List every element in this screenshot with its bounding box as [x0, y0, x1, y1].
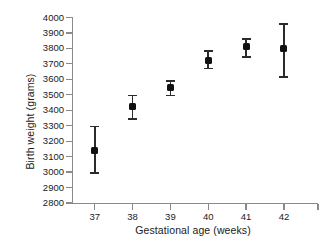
- y-axis-tick-label: 4000: [34, 13, 64, 23]
- y-axis-tick: [66, 110, 72, 111]
- data-point-marker: [243, 43, 250, 50]
- x-axis-tick: [94, 204, 95, 210]
- y-axis-tick: [66, 79, 72, 80]
- x-axis-title: Gestational age (weeks): [68, 224, 318, 236]
- y-axis-tick-label: 3300: [34, 121, 64, 131]
- y-axis-tick: [66, 32, 72, 33]
- error-bar-cap-upper: [204, 50, 213, 52]
- y-axis-tick-label: 3600: [34, 74, 64, 84]
- y-axis-tick-label: 2900: [34, 183, 64, 193]
- y-axis-tick: [66, 63, 72, 64]
- x-axis-tick-label: 41: [231, 212, 261, 222]
- error-bar-cap-upper: [279, 23, 288, 25]
- y-axis-tick: [66, 187, 72, 188]
- y-axis-tick: [66, 141, 72, 142]
- x-axis-tick-label: 37: [80, 212, 110, 222]
- y-axis-line: [72, 17, 73, 204]
- error-bar-cap-upper: [90, 126, 99, 128]
- x-axis-tick: [132, 204, 133, 210]
- x-axis-tick-label: 39: [155, 212, 185, 222]
- error-bar-cap-lower: [166, 95, 175, 97]
- data-point-marker: [129, 103, 136, 110]
- x-axis-tick: [245, 204, 246, 210]
- data-point-marker: [280, 45, 287, 52]
- x-axis-tick-label: 40: [193, 212, 223, 222]
- y-axis-tick-label: 3200: [34, 136, 64, 146]
- y-axis-tick-label: 3900: [34, 28, 64, 38]
- y-axis-tick-label: 3400: [34, 105, 64, 115]
- y-axis-tick-label: 3700: [34, 59, 64, 69]
- y-axis-tick-label: 3800: [34, 43, 64, 53]
- error-bar-cap-lower: [279, 76, 288, 78]
- y-axis-tick-label: 2800: [34, 198, 64, 208]
- y-axis-tick: [66, 156, 72, 157]
- data-point-marker: [91, 147, 98, 154]
- x-axis-tick-label: 38: [118, 212, 148, 222]
- y-axis-tick: [66, 48, 72, 49]
- x-axis-tick: [283, 204, 284, 210]
- error-bar-cap-upper: [242, 38, 251, 40]
- y-axis-tick: [66, 94, 72, 95]
- y-axis-tick-label: 3500: [34, 90, 64, 100]
- y-axis-tick-label: 3000: [34, 167, 64, 177]
- error-bar-cap-lower: [128, 118, 137, 120]
- error-bar-cap-upper: [128, 95, 137, 97]
- error-bar-cap-upper: [166, 80, 175, 82]
- x-axis-tick-label: 42: [269, 212, 299, 222]
- y-axis-tick: [66, 125, 72, 126]
- error-bar-cap-lower: [204, 68, 213, 70]
- y-axis-tick-label: 3100: [34, 152, 64, 162]
- y-axis-tick: [66, 17, 72, 18]
- y-axis-tick: [66, 202, 72, 203]
- data-point-marker: [205, 57, 212, 64]
- x-axis-line: [72, 203, 318, 204]
- data-point-marker: [167, 84, 174, 91]
- x-axis-tick: [170, 204, 171, 210]
- birth-weight-chart: Birth weight (grams) Gestational age (we…: [0, 0, 334, 243]
- error-bar-cap-lower: [90, 172, 99, 174]
- x-axis-end-tick: [317, 204, 318, 210]
- error-bar-cap-lower: [242, 56, 251, 58]
- x-axis-tick: [208, 204, 209, 210]
- y-axis-tick: [66, 171, 72, 172]
